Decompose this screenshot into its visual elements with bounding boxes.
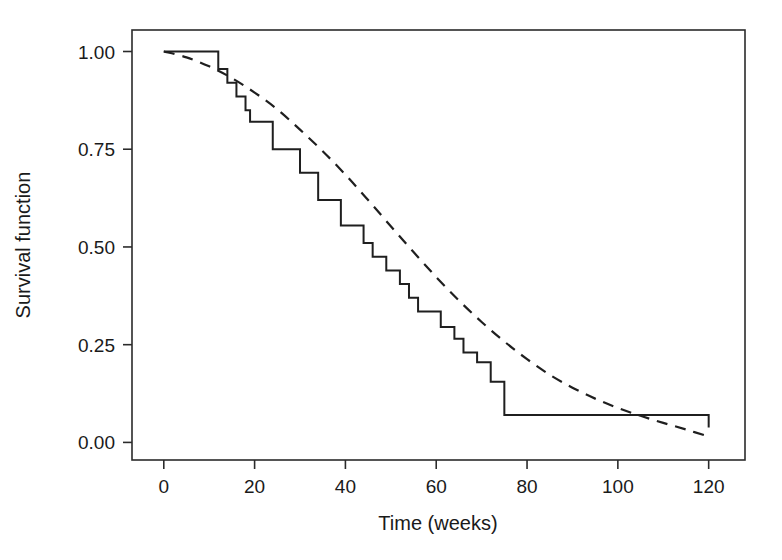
y-tick-label: 0.75	[78, 139, 115, 160]
y-axis-title: Survival function	[12, 172, 34, 319]
x-tick-label: 80	[516, 476, 537, 497]
x-tick-label: 60	[426, 476, 447, 497]
x-tick-label: 0	[158, 476, 169, 497]
x-axis-tick-marks	[164, 460, 709, 469]
x-tick-label: 20	[244, 476, 265, 497]
x-axis-tick-labels: 020406080100120	[158, 476, 724, 497]
plot-frame-box	[132, 30, 745, 460]
y-tick-label: 0.50	[78, 237, 115, 258]
x-tick-label: 100	[602, 476, 634, 497]
y-axis-tick-labels: 0.000.250.500.751.00	[78, 42, 115, 454]
x-tick-label: 120	[693, 476, 725, 497]
kaplan-meier-step-curve	[164, 52, 709, 428]
survival-function-figure: 0.000.250.500.751.00 020406080100120 Tim…	[0, 0, 782, 560]
plot-canvas: 0.000.250.500.751.00 020406080100120 Tim…	[0, 0, 782, 560]
x-tick-label: 40	[335, 476, 356, 497]
y-tick-label: 0.25	[78, 335, 115, 356]
y-axis-tick-marks	[123, 52, 132, 443]
x-axis-title: Time (weeks)	[378, 512, 497, 534]
y-tick-label: 1.00	[78, 42, 115, 63]
y-tick-label: 0.00	[78, 432, 115, 453]
